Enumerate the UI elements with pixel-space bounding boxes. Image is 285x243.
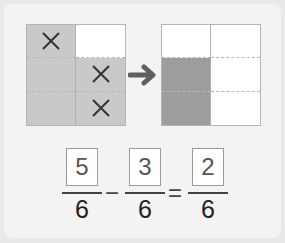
grid-cell <box>211 25 260 58</box>
grid-cell <box>162 25 211 58</box>
fraction-bar <box>188 192 228 194</box>
grid-cell <box>76 92 125 125</box>
grid-cell <box>211 92 260 125</box>
grid-cell <box>27 25 76 58</box>
fraction-bar <box>62 192 102 194</box>
denominator: 6 <box>125 195 165 224</box>
denominator: 6 <box>188 195 228 224</box>
fraction-equation: 5 6 − 3 6 = 2 6 <box>0 145 285 225</box>
grid-cell <box>27 58 76 91</box>
numerator-box: 3 <box>129 148 161 186</box>
grid-cell <box>211 58 260 91</box>
left-fraction-grid <box>26 24 126 126</box>
fraction-bar <box>125 192 165 194</box>
grid-cell <box>162 58 211 91</box>
grid-cell <box>76 25 125 58</box>
grid-cell <box>76 58 125 91</box>
grid-cell <box>162 92 211 125</box>
grid-cell <box>27 92 76 125</box>
right-arrow-icon <box>128 64 158 86</box>
numerator-box: 5 <box>66 148 98 186</box>
denominator: 6 <box>62 195 102 224</box>
cross-icon <box>90 63 112 85</box>
minus-sign: − <box>105 179 119 207</box>
numerator-box: 2 <box>192 148 224 186</box>
cross-icon <box>40 30 62 52</box>
right-fraction-grid <box>161 24 261 126</box>
equals-sign: = <box>168 179 182 207</box>
cross-icon <box>90 97 112 119</box>
